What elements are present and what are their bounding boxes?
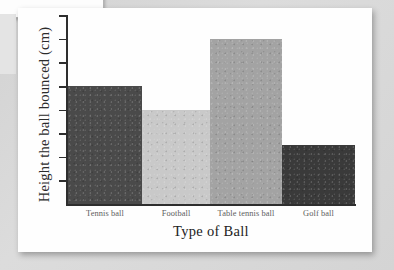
category-label: Football (142, 209, 210, 218)
y-axis-tick (59, 180, 68, 182)
plot-area (68, 15, 356, 204)
x-axis-title: Type of Ball (66, 223, 356, 240)
bar-texture (142, 110, 210, 205)
page-edge-shadow (0, 14, 16, 74)
scan-background: Height the ball bounced (cm) Tennis ball… (0, 0, 394, 270)
bar-texture (282, 145, 355, 204)
y-axis-tick (59, 86, 68, 88)
category-label: Tennis ball (68, 209, 142, 218)
category-label: Table tennis ball (210, 209, 282, 218)
bar-tennis-ball (68, 86, 142, 204)
y-axis-tick (59, 15, 68, 17)
y-axis-tick (59, 62, 68, 64)
y-axis-tick (59, 157, 68, 159)
category-label: Golf ball (282, 209, 355, 218)
bar-football (142, 110, 210, 205)
bar-golf-ball (282, 145, 355, 204)
bar-chart: Height the ball bounced (cm) Tennis ball… (18, 8, 372, 252)
y-axis-tick (59, 110, 68, 112)
bar-table-tennis-ball (210, 39, 282, 204)
x-axis-line (66, 204, 356, 206)
y-axis-tick (59, 133, 68, 135)
bar-texture (68, 86, 142, 204)
bar-texture (210, 39, 282, 204)
y-axis-title: Height the ball bounced (cm) (36, 15, 53, 215)
chart-page: Height the ball bounced (cm) Tennis ball… (18, 8, 372, 252)
y-axis-tick (59, 39, 68, 41)
